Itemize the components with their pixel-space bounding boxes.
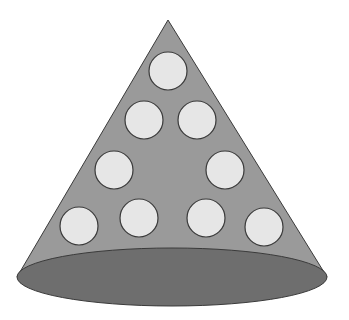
circle-dot-8 bbox=[187, 199, 225, 237]
cone-figure bbox=[0, 0, 349, 320]
circle-dot-7 bbox=[120, 199, 158, 237]
circle-dot-9 bbox=[245, 208, 283, 246]
circle-dot-6 bbox=[60, 207, 98, 245]
circle-dot-3 bbox=[178, 101, 216, 139]
circle-dot-4 bbox=[95, 151, 133, 189]
cone-base-ellipse bbox=[17, 248, 327, 306]
circle-dot-1 bbox=[149, 52, 187, 90]
circle-dot-5 bbox=[206, 151, 244, 189]
cone-diagram bbox=[0, 0, 349, 320]
circle-dot-2 bbox=[125, 101, 163, 139]
